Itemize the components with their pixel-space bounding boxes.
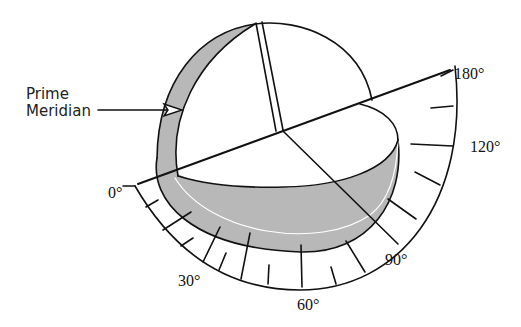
- label-180-degrees: 180°: [454, 65, 484, 82]
- lower-hemisphere-shading: [156, 140, 399, 252]
- label-120-degrees: 120°: [470, 138, 500, 155]
- prime-meridian-cut-face: [157, 24, 255, 176]
- label-30-degrees: 30°: [178, 272, 200, 289]
- callout-label-line1: Prime: [26, 85, 69, 103]
- label-90-degrees: 90°: [385, 251, 407, 268]
- longitude-sphere-diagram: Prime Meridian 0° 30° 60° 90° 120° 180°: [0, 0, 521, 327]
- label-0-degrees: 0°: [108, 184, 122, 201]
- label-60-degrees: 60°: [297, 296, 319, 313]
- equator-plane-back: [360, 104, 398, 140]
- callout-label-line2: Meridian: [26, 102, 91, 120]
